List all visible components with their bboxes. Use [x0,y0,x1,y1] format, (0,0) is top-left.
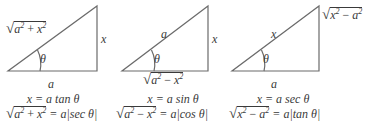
adjacent-label-1: a [48,78,54,90]
substitution-2: x = a sin θ [138,92,208,106]
identity-3: √x2 − a2 = a|tan θ| [229,106,320,121]
angle-label-2: θ [154,53,160,65]
angle-label-1: θ [40,53,46,65]
hypotenuse-label-3: x [271,28,276,40]
triangle-1 [8,6,97,71]
angle-label-3: θ [263,53,269,65]
identity-2: √a2 − x2 = a|cos θ| [116,106,208,121]
hypotenuse-label-1: √a2 + x2 [6,22,46,35]
adjacent-label-2: √a2 − x2 [143,73,183,86]
identity-1: √a2 + x2 = a|sec θ| [6,106,97,121]
substitution-1: x = a tan θ [18,92,88,106]
opposite-label-3: √x2 − a2 [322,8,362,21]
substitution-3: x = a sec θ [248,92,318,106]
opposite-label-2: x [212,33,217,45]
hypotenuse-label-2: a [161,28,167,40]
opposite-label-1: x [101,33,106,45]
adjacent-label-3: a [271,78,277,90]
